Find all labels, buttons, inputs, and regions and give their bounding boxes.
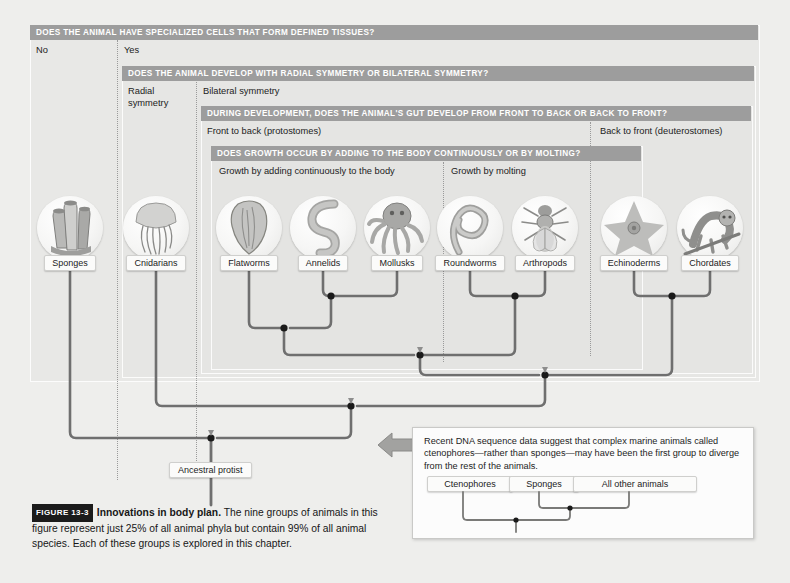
sponge-icon [37,196,103,260]
taxon-label: Cnidarians [126,255,185,271]
flatworm-icon [216,196,282,260]
taxon-label: Flatworms [220,255,278,271]
taxon-label: Roundworms [435,255,504,271]
taxon-mollusks[interactable]: Mollusks [360,196,434,271]
taxon-flatworms[interactable]: Flatworms [212,196,286,271]
taxon-annelids[interactable]: Annelids [286,196,360,271]
insect-icon [512,196,578,260]
taxon-label: Echinoderms [600,255,669,271]
inset-note: Recent DNA sequence data suggest that co… [412,427,754,539]
figure-caption: FIGURE 13-3Innovations in body plan. The… [32,504,392,551]
inset-cladogram [413,428,753,538]
roundworm-icon [437,196,503,260]
figure-canvas: DOES THE ANIMAL HAVE SPECIALIZED CELLS T… [0,0,790,583]
figure-title: Innovations in body plan. [97,507,221,518]
jellyfish-icon [123,196,189,260]
octopus-icon [364,196,430,260]
monkey-icon [677,196,743,260]
taxon-roundworms[interactable]: Roundworms [433,196,507,271]
taxon-echinoderms[interactable]: Echinoderms [597,196,671,271]
ancestral-protist-label: Ancestral protist [169,462,252,478]
taxon-cnidarians[interactable]: Cnidarians [119,196,193,271]
figure-number-badge: FIGURE 13-3 [32,504,93,522]
seastar-icon [601,196,667,260]
taxon-sponges[interactable]: Sponges [33,196,107,271]
earthworm-icon [290,196,356,260]
taxon-chordates[interactable]: Chordates [673,196,747,271]
callout-arrow-icon [376,428,416,462]
taxon-label: Mollusks [371,255,422,271]
taxon-label: Annelids [298,255,349,271]
taxon-label: Chordates [681,255,739,271]
taxon-label: Arthropods [515,255,575,271]
taxon-label: Sponges [44,255,96,271]
taxon-arthropods[interactable]: Arthropods [508,196,582,271]
